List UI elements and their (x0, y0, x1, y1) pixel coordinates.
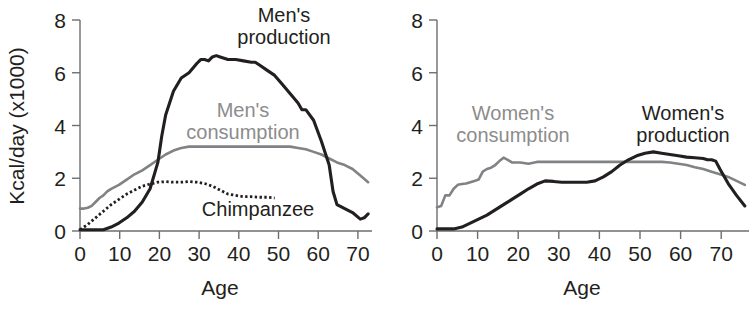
women-xlabel-20: 20 (507, 242, 530, 265)
men-ylabel-8: 8 (54, 9, 66, 32)
women-ylabel-0: 0 (411, 220, 423, 243)
women-xlabel-50: 50 (628, 242, 651, 265)
chart-panel-women: 8 6 4 2 0 0 10 20 30 40 (377, 0, 754, 309)
men-xlabel-50: 50 (267, 242, 290, 265)
mens-production-label-line2: production (237, 26, 330, 48)
men-xlabel-10: 10 (108, 242, 131, 265)
women-xlabel-70: 70 (710, 242, 733, 265)
mens-consumption-label-line2: consumption (186, 121, 299, 143)
womens-production-label-line2: production (636, 124, 729, 146)
men-xlabel-30: 30 (187, 242, 210, 265)
men-ylabel-0: 0 (54, 220, 66, 243)
women-xlabel-10: 10 (466, 242, 489, 265)
men-xlabel-0: 0 (74, 242, 86, 265)
womens-consumption-label-line1: Women's (472, 102, 554, 124)
women-chart-svg: 8 6 4 2 0 0 10 20 30 40 (377, 0, 754, 309)
womens-consumption-label-line2: consumption (456, 124, 569, 146)
women-x-axis: 0 10 20 30 40 50 60 70 Age (431, 231, 749, 299)
women-ylabel-8: 8 (411, 9, 423, 32)
womens-production-curve (437, 152, 745, 229)
men-ylabel-4: 4 (54, 115, 66, 138)
women-xlabel-40: 40 (588, 242, 611, 265)
women-annotations: Women's consumption Women's production (456, 102, 729, 146)
women-x-axis-title: Age (563, 276, 600, 299)
figure-container: 8 6 4 2 0 Kcal/day (x1000) 0 10 20 (0, 0, 754, 309)
women-xlabel-0: 0 (431, 242, 443, 265)
men-xlabel-20: 20 (148, 242, 171, 265)
men-ylabel-6: 6 (54, 62, 66, 85)
women-series-group (437, 152, 745, 229)
women-ylabel-4: 4 (411, 115, 423, 138)
chimpanzee-label-text: Chimpanzee (202, 198, 314, 220)
mens-production-label-line1: Men's (258, 4, 311, 26)
mens-consumption-label-line1: Men's (217, 99, 270, 121)
men-xlabel-70: 70 (346, 242, 369, 265)
men-chart-svg: 8 6 4 2 0 Kcal/day (x1000) 0 10 20 (0, 0, 377, 309)
men-y-axis: 8 6 4 2 0 Kcal/day (x1000) (5, 9, 80, 243)
women-xlabel-60: 60 (669, 242, 692, 265)
men-x-axis: 0 10 20 30 40 50 60 70 Age (74, 231, 372, 299)
men-ylabel-2: 2 (54, 167, 66, 190)
men-y-axis-title: Kcal/day (x1000) (5, 47, 28, 205)
men-xlabel-60: 60 (307, 242, 330, 265)
women-y-axis: 8 6 4 2 0 (411, 9, 437, 243)
men-xlabel-40: 40 (227, 242, 250, 265)
women-ylabel-2: 2 (411, 167, 423, 190)
chart-panel-men: 8 6 4 2 0 Kcal/day (x1000) 0 10 20 (0, 0, 377, 309)
men-x-axis-title: Age (201, 276, 238, 299)
women-ylabel-6: 6 (411, 62, 423, 85)
womens-production-label-line1: Women's (642, 102, 724, 124)
women-xlabel-30: 30 (547, 242, 570, 265)
